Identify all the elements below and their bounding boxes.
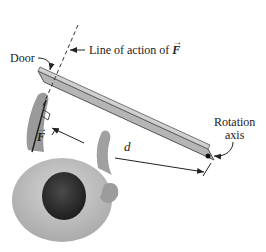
distance-label: d bbox=[124, 140, 131, 153]
force-label: →F bbox=[37, 131, 45, 143]
line-of-action-label: Line of action of →F bbox=[89, 44, 180, 56]
distance-arrow-right bbox=[115, 158, 204, 172]
door-label: Door bbox=[10, 52, 35, 64]
rotation-axis-dot bbox=[206, 154, 211, 159]
rotation-axis-label: Rotation axis bbox=[214, 116, 255, 142]
distance-arrow-left bbox=[52, 128, 84, 143]
rotation-axis-pointer bbox=[214, 142, 233, 156]
force-symbol-inline: →F bbox=[172, 44, 180, 56]
distance-tick bbox=[203, 163, 211, 176]
line-of-action-text: Line of action of bbox=[89, 43, 172, 57]
torque-door-diagram: Door Line of action of →F →F d Rotation … bbox=[0, 0, 266, 252]
person-figure bbox=[12, 93, 118, 242]
